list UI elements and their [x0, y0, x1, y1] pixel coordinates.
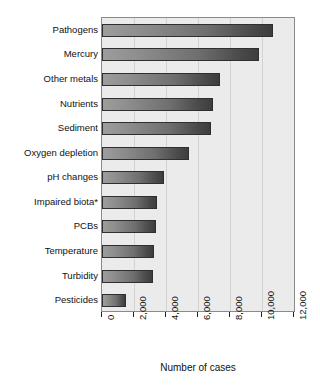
bar — [102, 245, 154, 258]
category-label: PCBs — [2, 220, 98, 231]
tick-label: 8,000 — [234, 296, 244, 320]
category-label: Other metals — [2, 73, 98, 84]
x-axis-title: Number of cases — [101, 362, 295, 373]
bar — [102, 220, 156, 233]
tick-mark — [165, 312, 166, 317]
bar — [102, 24, 273, 37]
gridline — [166, 18, 167, 311]
bar — [102, 270, 153, 283]
category-label: pH changes — [2, 171, 98, 182]
tick-label: 0 — [106, 315, 116, 320]
tick-mark — [197, 312, 198, 317]
bar — [102, 147, 189, 160]
category-label: Turbidity — [2, 270, 98, 281]
category-label: Impaired biota* — [2, 196, 98, 207]
tick-label: 6,000 — [202, 296, 212, 320]
tick-label: 12,000 — [298, 291, 308, 320]
category-label: Sediment — [2, 122, 98, 133]
category-label: Oxygen depletion — [2, 147, 98, 158]
category-axis-labels: PathogensMercuryOther metalsNutrientsSed… — [0, 0, 98, 387]
bar — [102, 122, 211, 135]
tick-mark — [261, 312, 262, 317]
gridline — [262, 18, 263, 311]
category-label: Temperature — [2, 245, 98, 256]
tick-mark — [229, 312, 230, 317]
bar — [102, 171, 164, 184]
gridline — [230, 18, 231, 311]
bar — [102, 196, 157, 209]
category-label: Nutrients — [2, 98, 98, 109]
tick-label: 10,000 — [266, 291, 276, 320]
category-label: Mercury — [2, 48, 98, 59]
tick-mark — [133, 312, 134, 317]
tick-mark — [101, 312, 102, 317]
bar — [102, 294, 126, 307]
gridline — [134, 18, 135, 311]
bar — [102, 48, 259, 61]
tick-label: 4,000 — [170, 296, 180, 320]
tick-mark — [293, 312, 294, 317]
gridline — [294, 18, 295, 311]
category-label: Pesticides — [2, 294, 98, 305]
bar — [102, 73, 220, 86]
plot-area — [101, 17, 295, 312]
bar-chart: PathogensMercuryOther metalsNutrientsSed… — [0, 0, 320, 387]
category-label: Pathogens — [2, 24, 98, 35]
tick-label: 2,000 — [138, 296, 148, 320]
gridline — [198, 18, 199, 311]
bar — [102, 98, 213, 111]
